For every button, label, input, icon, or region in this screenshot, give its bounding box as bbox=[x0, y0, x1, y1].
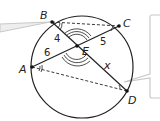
angle-marks-ba bbox=[39, 23, 120, 89]
label-c: C bbox=[123, 17, 131, 30]
dashed-ad bbox=[32, 67, 127, 91]
label-d: D bbox=[128, 94, 136, 107]
point-c bbox=[117, 24, 121, 28]
geometry-diagram: B C E A D 4 6 5 x bbox=[0, 0, 160, 121]
left-callout bbox=[0, 22, 50, 32]
point-b bbox=[50, 20, 54, 24]
segment-ed-length: x bbox=[103, 59, 111, 72]
point-e bbox=[75, 44, 79, 48]
label-a: A bbox=[18, 63, 27, 76]
segment-ae-length: 6 bbox=[44, 47, 50, 58]
label-e: E bbox=[82, 45, 89, 58]
segment-be-length: 4 bbox=[54, 33, 60, 44]
label-b: B bbox=[40, 9, 48, 22]
point-d bbox=[125, 89, 129, 93]
circle bbox=[31, 16, 133, 118]
chord-bd bbox=[52, 22, 127, 91]
point-a bbox=[30, 65, 34, 69]
segment-ce-length: 5 bbox=[100, 36, 106, 47]
